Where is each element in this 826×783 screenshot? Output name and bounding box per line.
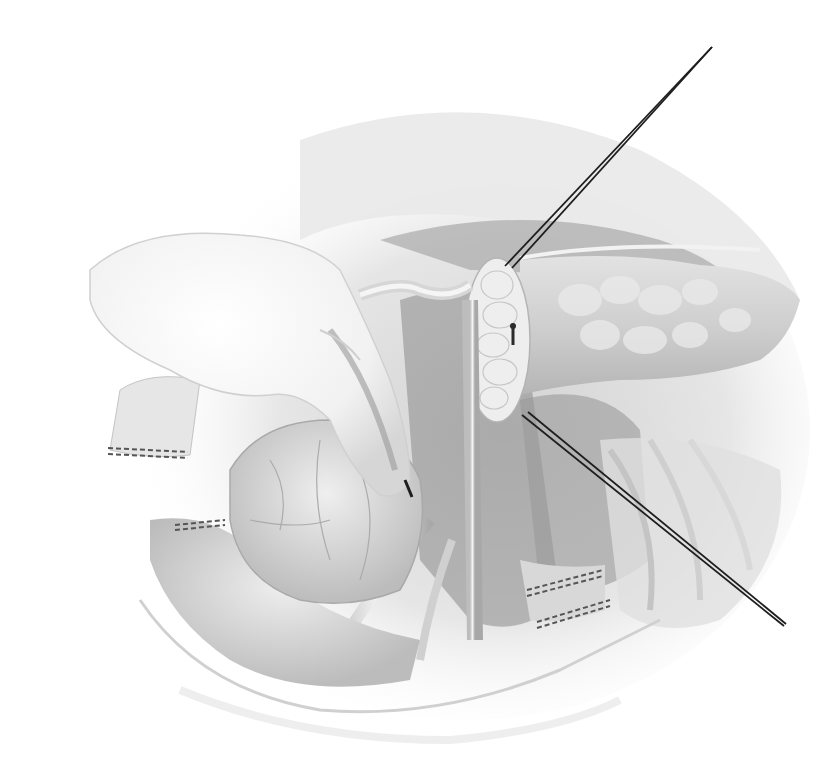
duodenum-stump bbox=[108, 377, 200, 458]
illustration-canvas bbox=[0, 0, 826, 783]
surgical-illustration bbox=[0, 0, 826, 783]
mesentery-right bbox=[600, 438, 781, 628]
